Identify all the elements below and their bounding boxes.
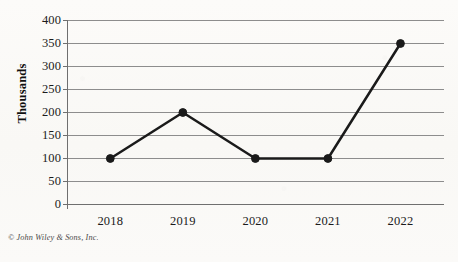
data-point-marker xyxy=(251,155,259,163)
x-axis-tick-label: 2020 xyxy=(225,215,285,228)
data-point-marker xyxy=(179,109,187,117)
y-axis-tick-label: 250 xyxy=(25,83,61,96)
y-axis-tick-label: 100 xyxy=(25,152,61,165)
y-axis-tick-label: 350 xyxy=(25,37,61,50)
copyright-notice: © John Wiley & Sons, Inc. xyxy=(8,233,99,242)
x-axis-tick-label: 2022 xyxy=(370,215,430,228)
y-axis-tick-label: 50 xyxy=(25,175,61,188)
y-axis-tick-label: 0 xyxy=(25,198,61,211)
data-point-marker xyxy=(106,155,114,163)
y-axis-tick-label: 150 xyxy=(25,129,61,142)
x-axis-tick-label: 2018 xyxy=(80,215,140,228)
x-axis-tick-label: 2019 xyxy=(153,215,213,228)
line-chart-figure: 050100150200250300350400 201820192020202… xyxy=(0,0,458,262)
data-point-marker xyxy=(324,155,332,163)
data-point-marker xyxy=(397,40,405,48)
data-series-line xyxy=(110,44,400,159)
y-axis-title: Thousands xyxy=(15,51,30,137)
y-axis-tick-label: 300 xyxy=(25,60,61,73)
x-axis-tick-label: 2021 xyxy=(298,215,358,228)
y-axis-tick-label: 400 xyxy=(25,14,61,27)
y-axis-tick-label: 200 xyxy=(25,106,61,119)
